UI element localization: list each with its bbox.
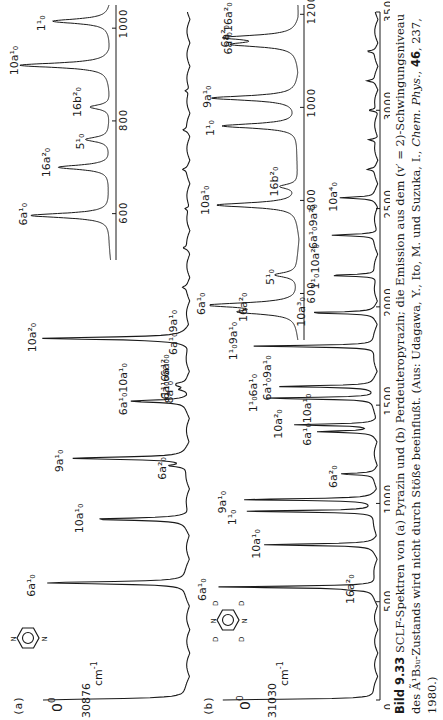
figure-caption: Bild 9.33 SCLF-Spektren von (a) Pyrazin … — [392, 6, 440, 714]
svg-text:N: N — [41, 636, 49, 641]
inset-peak-label: 16a²₀ — [40, 147, 53, 177]
svg-text:N: N — [241, 618, 249, 623]
x-tick-label: 2000 — [383, 287, 390, 316]
peak-label-a: 6a²₀ — [156, 457, 169, 480]
inset-peak-label: 1¹₀ — [35, 15, 48, 31]
inset-peak-label: 9a¹₀ — [201, 85, 214, 108]
panel-b-inset: 6008001000120016a²₀6a¹₀5¹₀10a¹₀16b²₀1¹₀9… — [195, 0, 318, 340]
panel-a-id: (a) — [12, 696, 25, 716]
x-tick-label: 3500cm-1 — [380, 0, 390, 22]
panel-b-origin-symbol: 00 — [235, 695, 253, 710]
main-x-axis: 0500100015002000250030003500cm-1 — [376, 0, 390, 710]
svg-text:N: N — [10, 636, 18, 641]
inset-peak-label: 6a²₀ — [219, 24, 232, 47]
panel-a-unit: cm-1 — [90, 661, 105, 686]
inset-peak-label: 10a¹₀ — [8, 45, 21, 75]
peak-label-a: 10a¹₀ — [73, 503, 86, 533]
svg-text:D: D — [238, 637, 246, 642]
svg-text:D: D — [212, 601, 220, 606]
peak-label-b: 1¹₀6a¹₀ — [247, 373, 260, 412]
peak-label-b: 6a¹₀10a¹₀ — [301, 393, 314, 446]
peak-label-a: 10a²₀ — [26, 322, 39, 352]
x-tick-label: 2500 — [383, 189, 390, 218]
svg-text:D: D — [212, 637, 220, 642]
inset-peak-label: 16b²₀ — [268, 166, 281, 196]
panel-a-inset: 60080010006a¹₀16a²₀5¹₀16b²₀10a¹₀1¹₀ — [8, 5, 129, 260]
peak-label-b: 10a²₀ — [272, 409, 285, 439]
x-tick-label: 1000 — [383, 484, 390, 513]
inset-peak-label: 10a¹₀ — [199, 185, 212, 215]
panel-a-spectrum: 6a¹₀10a¹₀6a²₀9a¹₀6a¹₀6a²₀6a¹₀10a¹₀8a¹₀1¹… — [25, 12, 190, 700]
peak-label-b: 16a²₀ — [344, 574, 357, 604]
peak-label-b: 1¹₀9a¹₀ — [227, 321, 240, 360]
inset-tick-label: 1000 — [306, 88, 317, 117]
inset-tick-label: 600 — [118, 202, 129, 224]
peak-label-b: 6a¹₀9a¹₀ — [261, 355, 274, 401]
x-tick-label: 3000 — [383, 91, 390, 120]
caption-volume: 46 — [409, 51, 423, 67]
inset-tick-label: 1000 — [118, 9, 129, 38]
inset-tick-label: 1200 — [306, 0, 317, 24]
pyrazine-structure-icon: N N — [10, 628, 49, 648]
inset-peak-label: 6a¹₀ — [17, 202, 30, 225]
panel-b-id: (b) — [202, 696, 215, 716]
inset-tick-label: 800 — [306, 188, 317, 210]
inset-peak-label: 1¹₀ — [204, 120, 217, 136]
panel-a-origin-value: 30876 — [80, 683, 93, 718]
x-tick-label: 0 — [383, 703, 390, 710]
x-tick-label: 1500 — [383, 386, 390, 415]
panel-b-origin-value: 31030 — [266, 683, 279, 718]
peak-label-a: 6a¹₀10a¹₀ — [117, 363, 130, 416]
panel-b-unit: cm-1 — [276, 661, 291, 686]
x-tick-label: 500 — [383, 590, 390, 612]
caption-journal: Chem. Phys. — [409, 74, 423, 146]
panel-b-spectrum: 16a²₀6a¹₀10a¹₀1¹₀9a¹₀6a²₀6a¹₀10a¹₀10a²₀1… — [196, 12, 378, 700]
svg-text:D: D — [238, 601, 246, 606]
peak-label-b: 6a²₀ — [327, 465, 340, 488]
inset-peak-label: 16a²₀ — [237, 292, 250, 322]
peak-label-a: 9a¹₀ — [53, 449, 66, 472]
peak-label-a: 6a¹₀9a¹₀ — [167, 309, 180, 355]
caption-number: Bild 9.33 — [393, 657, 407, 714]
inset-peak-label: 5¹₀ — [74, 133, 87, 149]
peak-label-b: 9a¹₀ — [216, 490, 229, 513]
perdeuteropyrazine-structure-icon: N N D D D D — [210, 601, 249, 642]
peak-label-b: 6a¹₀ — [196, 578, 209, 601]
rotated-figure-page: 6a¹₀10a¹₀6a²₀9a¹₀6a¹₀6a²₀6a¹₀10a¹₀8a¹₀1¹… — [0, 0, 443, 720]
inset-tick-label: 600 — [306, 281, 317, 303]
svg-text:N: N — [210, 618, 218, 623]
peak-label-a: 6a¹₀ — [25, 574, 38, 597]
inset-peak-label: 5¹₀ — [264, 268, 277, 284]
inset-peak-label: 16b²₀ — [71, 87, 84, 117]
spectra-figure: 6a¹₀10a¹₀6a²₀9a¹₀6a¹₀6a²₀6a¹₀10a¹₀8a¹₀1¹… — [0, 0, 390, 720]
peak-label-b: 10a¹₀ — [250, 529, 263, 559]
inset-tick-label: 800 — [118, 109, 129, 131]
inset-peak-label: 6a¹₀ — [195, 292, 208, 315]
peak-label-b: 10a⁴₀ — [327, 182, 340, 212]
peak-label-a: 1¹₀6a¹₀ — [159, 359, 172, 398]
